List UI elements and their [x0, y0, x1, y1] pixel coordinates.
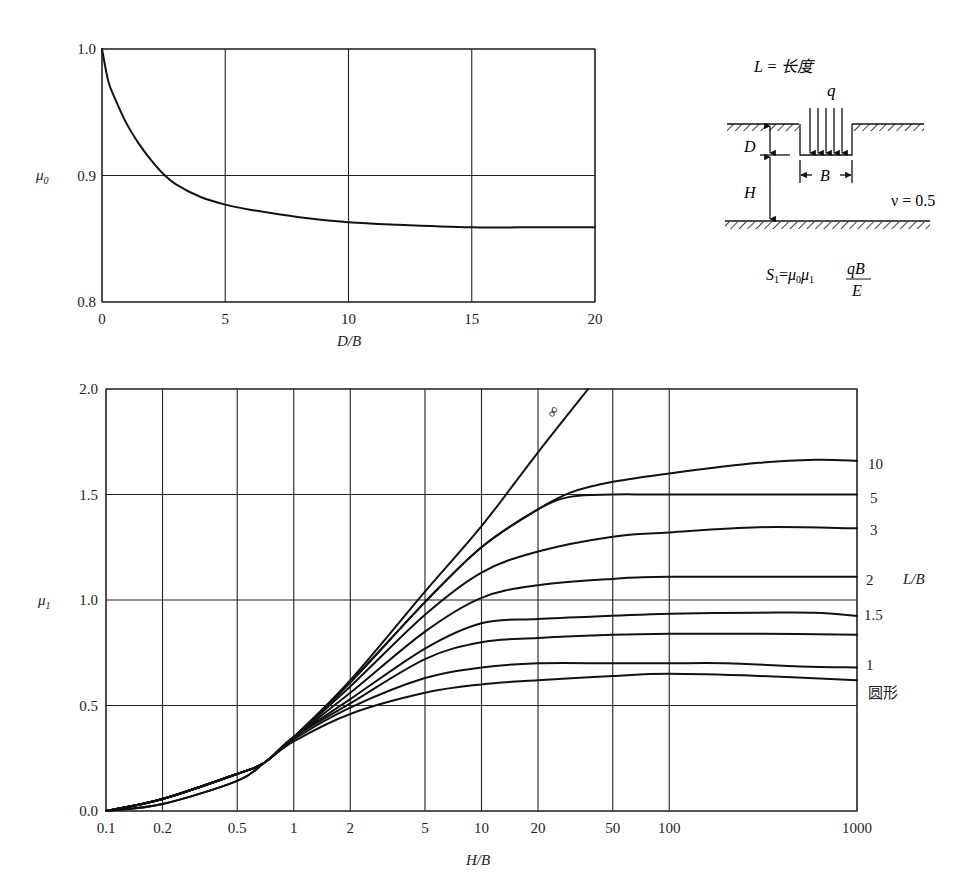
mu1-chart-tick-labels: 0.10.20.512510205010010000.00.51.01.52.0: [79, 381, 872, 836]
y-tick-label: 1.0: [79, 592, 98, 608]
ground-hatch-left: [727, 124, 799, 131]
x-tick-label: 20: [588, 311, 603, 327]
curve-label: 5: [870, 490, 878, 506]
h-over-b-axis-label: H/B: [465, 852, 490, 868]
figure-canvas: 051015200.80.91.0 μ0 D/B L = 长度 q: [0, 0, 964, 891]
svg-text:qB: qB: [847, 260, 865, 278]
x-tick-label: 10: [474, 820, 489, 836]
mu1-axis-label: μ1: [37, 592, 51, 611]
x-tick-label: 0: [98, 311, 106, 327]
y-tick-label: 2.0: [79, 381, 98, 397]
mu1-chart-grid: [106, 389, 857, 811]
x-tick-label: 1: [290, 820, 298, 836]
svg-text:S1=μ0μ1: S1=μ0μ1: [766, 266, 814, 285]
curve-label: ∞: [543, 403, 562, 420]
depth-d-label: D: [743, 138, 756, 155]
y-tick-label: 0.0: [79, 803, 98, 819]
x-tick-label: 0.5: [228, 820, 247, 836]
x-tick-label: 1000: [842, 820, 872, 836]
d-over-b-axis-label: D/B: [336, 333, 361, 349]
y-tick-label: 1.0: [77, 41, 96, 57]
x-tick-label: 5: [421, 820, 429, 836]
settlement-formula: S1=μ0μ1 qB E: [766, 260, 871, 299]
mu0-chart-tick-labels: 051015200.80.91.0: [77, 41, 602, 327]
l-over-b-legend-title: L/B: [902, 571, 925, 587]
length-definition-label: L = 长度: [753, 58, 816, 75]
x-tick-label: 5: [222, 311, 230, 327]
y-tick-label: 0.5: [79, 698, 98, 714]
curve-label: 1.5: [864, 607, 883, 623]
mu0-chart: 051015200.80.91.0 μ0 D/B: [35, 41, 603, 349]
load-arrows: [810, 108, 842, 153]
layer-h-label: H: [743, 184, 757, 201]
rigid-base-hatch: [725, 222, 930, 229]
x-tick-label: 0.1: [97, 820, 116, 836]
y-tick-label: 0.9: [77, 168, 96, 184]
x-tick-label: 100: [658, 820, 681, 836]
load-q-label: q: [827, 81, 836, 100]
y-tick-label: 1.5: [79, 487, 98, 503]
l-over-b-curve-labels: ∞105321.51圆形: [543, 403, 898, 701]
foundation-diagram: L = 长度 q D H B ν = 0.5: [725, 58, 935, 299]
width-b-label: B: [820, 167, 830, 184]
x-tick-label: 0.2: [153, 820, 172, 836]
svg-text:E: E: [851, 282, 862, 299]
mu0-chart-grid: [102, 49, 595, 302]
x-tick-label: 2: [347, 820, 355, 836]
curve-label: 2: [866, 572, 874, 588]
curve-label: 3: [870, 522, 878, 538]
curve-label: 圆形: [868, 685, 898, 701]
x-tick-label: 20: [531, 820, 546, 836]
mu0-axis-label: μ0: [35, 167, 49, 186]
y-tick-label: 0.8: [77, 294, 96, 310]
mu1-chart: 0.10.20.512510205010010000.00.51.01.52.0…: [37, 381, 925, 868]
x-tick-label: 10: [341, 311, 356, 327]
poisson-ratio-label: ν = 0.5: [891, 192, 935, 209]
x-tick-label: 15: [464, 311, 479, 327]
x-tick-label: 50: [605, 820, 620, 836]
curve-label: 1: [866, 657, 874, 673]
ground-hatch-right: [852, 124, 924, 131]
curve-label: 10: [868, 456, 883, 472]
